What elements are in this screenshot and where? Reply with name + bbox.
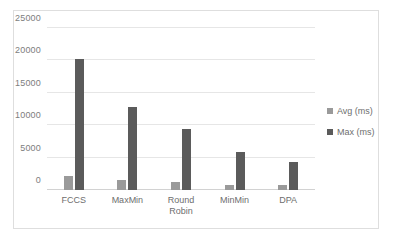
legend-label: Max (ms)	[337, 127, 375, 137]
y-axis-tick-label: 20000	[15, 45, 41, 55]
bar[interactable]	[75, 59, 84, 190]
bar[interactable]	[117, 180, 126, 190]
bar[interactable]	[278, 185, 287, 190]
x-axis-tick-label: MinMin	[208, 195, 262, 206]
legend-label: Avg (ms)	[337, 106, 373, 116]
x-axis-tick-label: DPA	[261, 195, 315, 206]
plot-area: 0500010000150002000025000 FCCSMaxMinRoun…	[47, 28, 315, 190]
bar[interactable]	[289, 162, 298, 190]
bar[interactable]	[225, 185, 234, 190]
bar-group	[154, 28, 208, 190]
bar[interactable]	[182, 129, 191, 190]
y-axis-tick-label: 25000	[15, 13, 41, 23]
legend-swatch-icon	[327, 108, 333, 114]
y-axis-tick-label: 10000	[15, 110, 41, 120]
bar-group	[261, 28, 315, 190]
bar[interactable]	[128, 107, 137, 190]
bar-group	[47, 28, 101, 190]
chart-legend: Avg (ms) Max (ms)	[327, 106, 375, 137]
y-axis-tick-label: 15000	[15, 78, 41, 88]
x-axis-tick-label: Round Robin	[154, 195, 208, 217]
bar[interactable]	[171, 182, 180, 190]
chart-frame: 0500010000150002000025000 FCCSMaxMinRoun…	[13, 10, 379, 229]
bars-layer	[47, 28, 315, 190]
bar[interactable]	[236, 152, 245, 190]
y-axis-tick-label: 0	[36, 175, 41, 185]
legend-swatch-icon	[327, 129, 333, 135]
y-axis-tick-label: 5000	[20, 143, 41, 153]
x-axis-tick-label: MaxMin	[101, 195, 155, 206]
bar[interactable]	[64, 176, 73, 190]
x-axis-tick-label: FCCS	[47, 195, 101, 206]
legend-item-max[interactable]: Max (ms)	[327, 127, 375, 137]
bar-group	[208, 28, 262, 190]
bar-group	[101, 28, 155, 190]
legend-item-avg[interactable]: Avg (ms)	[327, 106, 375, 116]
